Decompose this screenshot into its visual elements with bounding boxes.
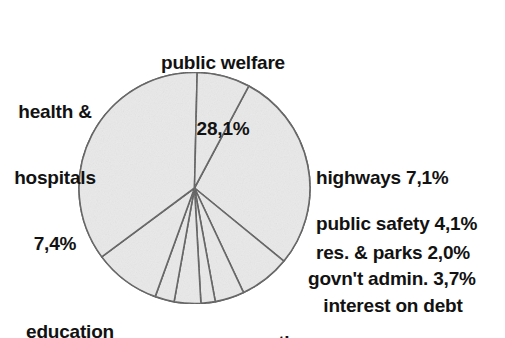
slice-label-health-hospitals-name-2: hospitals	[2, 167, 108, 189]
slice-label-public-welfare: public welfare 28,1%	[134, 8, 312, 184]
slice-label-education-name: education	[2, 321, 138, 338]
pie-chart: public welfare 28,1% health & hospitals …	[0, 0, 505, 338]
slice-label-education: education 35,5%	[2, 277, 138, 338]
slice-label-health-hospitals-value: 7,4%	[2, 233, 108, 255]
slice-label-interest-on-debt-name: interest on debt	[300, 295, 486, 317]
slice-label-public-welfare-value: 28,1%	[134, 118, 312, 140]
slice-label-public-welfare-name: public welfare	[134, 52, 312, 74]
slice-label-health-hospitals: health & hospitals 7,4%	[2, 57, 108, 299]
slice-label-interest-on-debt: interest on debt 2,7%	[300, 251, 486, 338]
slice-label-health-hospitals-name-1: health &	[2, 101, 108, 123]
